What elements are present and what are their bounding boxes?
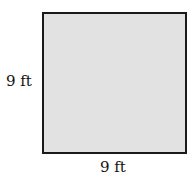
side-length-label-left: 9 ft bbox=[6, 72, 32, 90]
square-shape bbox=[42, 12, 187, 154]
side-length-label-bottom: 9 ft bbox=[100, 158, 126, 176]
